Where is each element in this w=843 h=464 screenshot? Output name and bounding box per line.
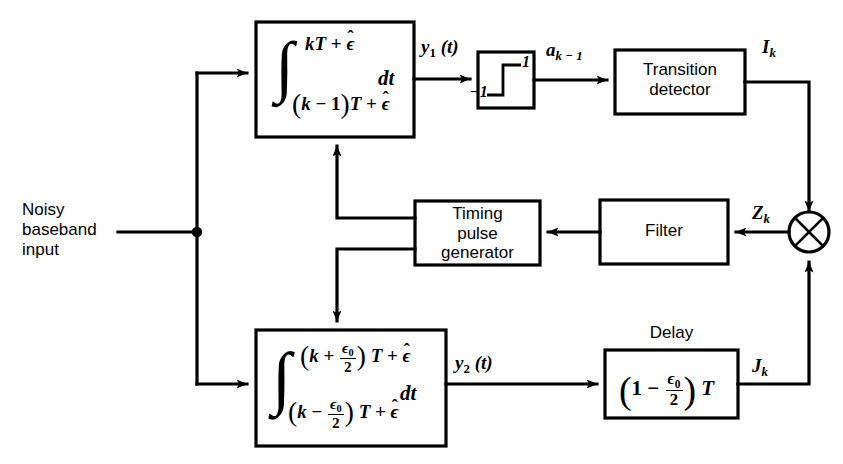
signal-Zk-base: Z: [752, 202, 764, 223]
top-lower-eps-hat: ̂ϵ: [382, 93, 390, 115]
top-lower-plus: +: [366, 93, 377, 114]
bi-lower-plus2: +: [375, 401, 386, 422]
signal-Jk-sub: k: [762, 364, 768, 379]
delay-expression: (1 − ϵ0 2 ) T: [619, 368, 714, 412]
bottom-integral-upper-limit: (k + ϵ0 2 ) T + ̂ϵ: [300, 340, 411, 376]
limiter-upper-level: 1: [522, 53, 530, 72]
bi-upper-frac-den: 2: [340, 358, 356, 375]
signal-y2: y2 (t): [455, 352, 493, 376]
junction-dot: [192, 227, 202, 237]
timing-pulse-generator-label: Timing pulse generator: [415, 204, 540, 263]
bi-lower-frac-num: ϵ0: [328, 396, 344, 415]
top-integral-lower-limit: (k − 1)T + ̂ϵ: [292, 88, 390, 120]
bi-lower-T: T: [359, 401, 371, 422]
bi-lower-fraction: ϵ0 2: [328, 396, 344, 431]
limiter-staircase: [487, 65, 521, 95]
top-integral-sign: ∫: [275, 32, 294, 100]
top-lower-eps: ϵ: [382, 93, 390, 114]
delay-frac-num: ϵ0: [666, 370, 683, 390]
block-diagram: Noisy baseband input ∫ kT + ̂ϵ (k − 1)T …: [0, 0, 843, 464]
signal-Jk: Jk: [752, 355, 768, 379]
delay-frac-den: 2: [666, 390, 683, 408]
top-upper-T: T: [315, 33, 327, 54]
bi-lower-eps-hat-glyph: ϵ: [391, 401, 399, 422]
signal-y1: y1 (t): [421, 36, 459, 60]
bi-upper-open-paren: (: [300, 340, 309, 371]
bi-upper-plus: +: [323, 345, 334, 366]
delay-eps: ϵ: [668, 369, 675, 388]
bi-upper-eps-hat: ̂ϵ: [403, 345, 411, 367]
signal-y1-arg: (t): [441, 36, 459, 57]
bi-lower-k: k: [297, 401, 307, 422]
delay-minus: −: [647, 376, 659, 400]
top-lower-one: 1: [331, 93, 341, 114]
input-label-line1: Noisy: [22, 200, 97, 220]
bi-upper-eps-hat-glyph: ϵ: [403, 345, 411, 366]
bi-upper-T: T: [371, 345, 383, 366]
input-label-line3: input: [22, 240, 97, 260]
limiter-lower-level: −1: [470, 83, 488, 102]
signal-Zk: Zk: [752, 202, 770, 226]
transition-detector-label: Transition detector: [615, 60, 745, 99]
bi-upper-fraction: ϵ0 2: [340, 340, 356, 375]
signal-y1-sub: 1: [429, 45, 435, 60]
delay-fraction: ϵ0 2: [666, 370, 683, 408]
signal-ak-sub: k − 1: [556, 48, 583, 63]
wire-tpg-to-top-integrator: [337, 146, 415, 218]
tpg-line3: generator: [415, 243, 540, 263]
bi-lower-close-paren: ): [345, 396, 354, 427]
signal-Jk-base: J: [752, 355, 762, 376]
delay-caption: Delay: [605, 323, 738, 343]
top-lower-minus: −: [315, 93, 326, 114]
delay-close-paren: ): [684, 369, 697, 411]
top-integral-dt: dt: [378, 66, 394, 91]
bi-upper-plus2: +: [387, 345, 398, 366]
delay-T: T: [701, 376, 714, 400]
top-upper-plus: +: [331, 33, 342, 54]
top-upper-eps-hat: ̂ϵ: [346, 33, 354, 55]
bi-upper-eps-sub: 0: [349, 347, 354, 358]
signal-y2-arg: (t): [475, 352, 493, 373]
top-upper-eps: ϵ: [346, 33, 354, 54]
signal-ak-minus-1: ak − 1: [546, 39, 583, 63]
signal-Zk-sub: k: [764, 211, 770, 226]
top-lower-T: T: [350, 93, 362, 114]
wire-Jk: [738, 262, 809, 384]
bi-upper-frac-num: ϵ0: [340, 340, 356, 359]
transition-detector-line2: detector: [615, 80, 745, 100]
bi-lower-frac-den: 2: [328, 414, 344, 431]
bi-lower-open-paren: (: [288, 396, 297, 427]
bi-upper-close-paren: ): [357, 340, 366, 371]
signal-ak-base: a: [546, 39, 556, 60]
top-lower-close-paren: ): [341, 88, 350, 119]
bottom-integral-lower-limit: (k − ϵ0 2 ) T + ̂ϵ: [288, 396, 399, 432]
signal-Ik-sub: k: [769, 45, 775, 60]
bi-upper-k: k: [309, 345, 319, 366]
tpg-line2: pulse: [415, 224, 540, 244]
bottom-integral-dt: dt: [400, 381, 416, 406]
delay-one: 1: [632, 376, 643, 400]
signal-Ik: Ik: [762, 36, 776, 60]
input-label-line2: baseband: [22, 220, 97, 240]
top-upper-k: k: [305, 33, 315, 54]
bi-lower-eps-sub: 0: [337, 403, 342, 414]
delay-eps-sub: 0: [675, 378, 681, 390]
bi-lower-minus: −: [311, 401, 322, 422]
delay-open-paren: (: [619, 369, 632, 411]
wire-Ik: [745, 82, 809, 211]
input-label: Noisy baseband input: [22, 200, 97, 260]
top-lower-k: k: [301, 93, 311, 114]
wire-tpg-to-bottom-integrator: [337, 249, 415, 321]
top-lower-open-paren: (: [292, 88, 301, 119]
transition-detector-line1: Transition: [615, 60, 745, 80]
signal-y2-sub: 2: [463, 361, 469, 376]
filter-label: Filter: [600, 221, 728, 241]
bi-lower-eps-hat: ̂ϵ: [391, 401, 399, 423]
tpg-line1: Timing: [415, 204, 540, 224]
top-integral-upper-limit: kT + ̂ϵ: [305, 33, 355, 55]
